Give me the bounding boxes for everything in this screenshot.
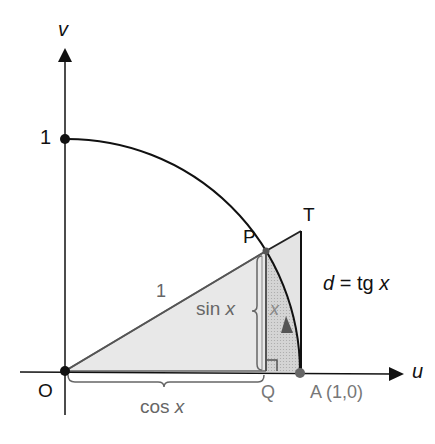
label-one-on-v: 1 bbox=[40, 126, 51, 149]
label-cos-x: cos x bbox=[140, 396, 184, 418]
label-d-equals-tg-x: d = tg x bbox=[323, 272, 389, 295]
u-axis bbox=[20, 372, 392, 374]
v-axis-label: v bbox=[58, 18, 68, 41]
label-p: P bbox=[243, 226, 256, 248]
point-origin bbox=[60, 366, 70, 376]
v-axis-arrow-icon bbox=[58, 48, 72, 62]
point-p bbox=[263, 248, 270, 255]
u-axis-arrow-icon bbox=[389, 367, 404, 381]
label-a: A (1,0) bbox=[310, 382, 363, 403]
cos-brace bbox=[68, 375, 264, 387]
label-t: T bbox=[303, 204, 315, 226]
sin-text: sin bbox=[196, 298, 220, 319]
label-arc-x: x bbox=[270, 299, 279, 320]
point-one-on-v bbox=[60, 134, 70, 144]
cos-text: cos bbox=[140, 396, 170, 417]
unit-circle-diagram bbox=[0, 0, 435, 444]
label-sin-x: sin x bbox=[196, 298, 235, 320]
label-origin: O bbox=[38, 380, 53, 402]
label-hypotenuse-one: 1 bbox=[156, 281, 166, 302]
label-q: Q bbox=[261, 382, 275, 403]
cos-var: x bbox=[175, 396, 185, 417]
sin-var: x bbox=[226, 298, 236, 319]
u-axis-label: u bbox=[412, 360, 423, 383]
tg-var: x bbox=[379, 272, 389, 294]
d-var: d bbox=[323, 272, 334, 294]
point-a bbox=[295, 368, 305, 378]
eq-tg: = tg bbox=[334, 272, 379, 294]
